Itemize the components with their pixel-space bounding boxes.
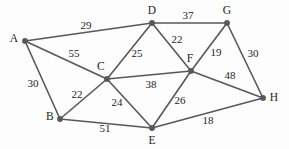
graph-diagram: 295530225125382437221948263018ABCDEFGH — [0, 0, 289, 149]
edge-weight-c-e: 24 — [111, 97, 122, 108]
node-label-h: H — [270, 92, 278, 104]
edge-weight-e-h: 18 — [202, 115, 213, 126]
edge-weight-c-d: 25 — [131, 48, 142, 59]
edge-weight-c-f: 38 — [145, 79, 156, 90]
edge-a-c — [25, 41, 107, 79]
node-h — [260, 95, 265, 100]
edge-d-f — [152, 23, 191, 71]
node-label-e: E — [148, 135, 155, 147]
node-label-a: A — [10, 33, 18, 45]
graph-canvas — [0, 0, 289, 149]
node-d — [149, 20, 154, 25]
edge-weight-b-c: 22 — [71, 89, 82, 100]
edge-weight-f-e: 26 — [174, 95, 185, 106]
edge-weight-a-b: 30 — [27, 78, 38, 89]
node-label-c: C — [97, 61, 105, 73]
edge-c-d — [107, 23, 152, 79]
node-label-g: G — [223, 5, 231, 17]
node-label-d: D — [148, 5, 156, 17]
edge-weight-b-e: 51 — [99, 123, 110, 134]
node-a — [22, 38, 27, 43]
edge-weight-f-g: 19 — [210, 47, 221, 58]
node-label-b: B — [46, 111, 54, 123]
edge-weight-f-h: 48 — [224, 70, 235, 81]
edge-b-c — [60, 79, 107, 119]
edge-weight-a-d: 29 — [80, 20, 91, 31]
edge-weight-a-c: 55 — [68, 48, 79, 59]
node-c — [104, 76, 109, 81]
node-e — [149, 125, 154, 130]
edge-weight-d-f: 22 — [171, 34, 182, 45]
edge-weight-g-h: 30 — [247, 48, 258, 59]
edge-weight-d-g: 37 — [182, 10, 193, 21]
node-f — [188, 68, 193, 73]
node-b — [57, 116, 62, 121]
node-g — [224, 20, 229, 25]
node-label-f: F — [187, 53, 194, 65]
